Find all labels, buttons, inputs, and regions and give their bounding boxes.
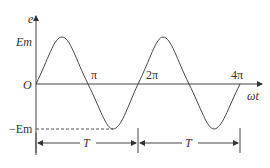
x-axis-label: ωt	[247, 89, 259, 103]
neg-em-label: −Em	[9, 122, 33, 136]
period2-label: T	[185, 136, 193, 150]
y-axis-label: e	[28, 12, 34, 26]
pi-tick-label: π	[91, 68, 97, 82]
four-pi-tick-label: 4π	[231, 68, 243, 82]
em-label: Em	[15, 35, 32, 49]
sine-curve	[36, 37, 240, 129]
period1-label: T	[83, 136, 91, 150]
two-pi-tick-label: 2π	[146, 68, 158, 82]
origin-label: O	[23, 78, 32, 92]
sine-wave-diagram: e ωt O Em −Em π 2π 4π T T	[0, 0, 270, 168]
